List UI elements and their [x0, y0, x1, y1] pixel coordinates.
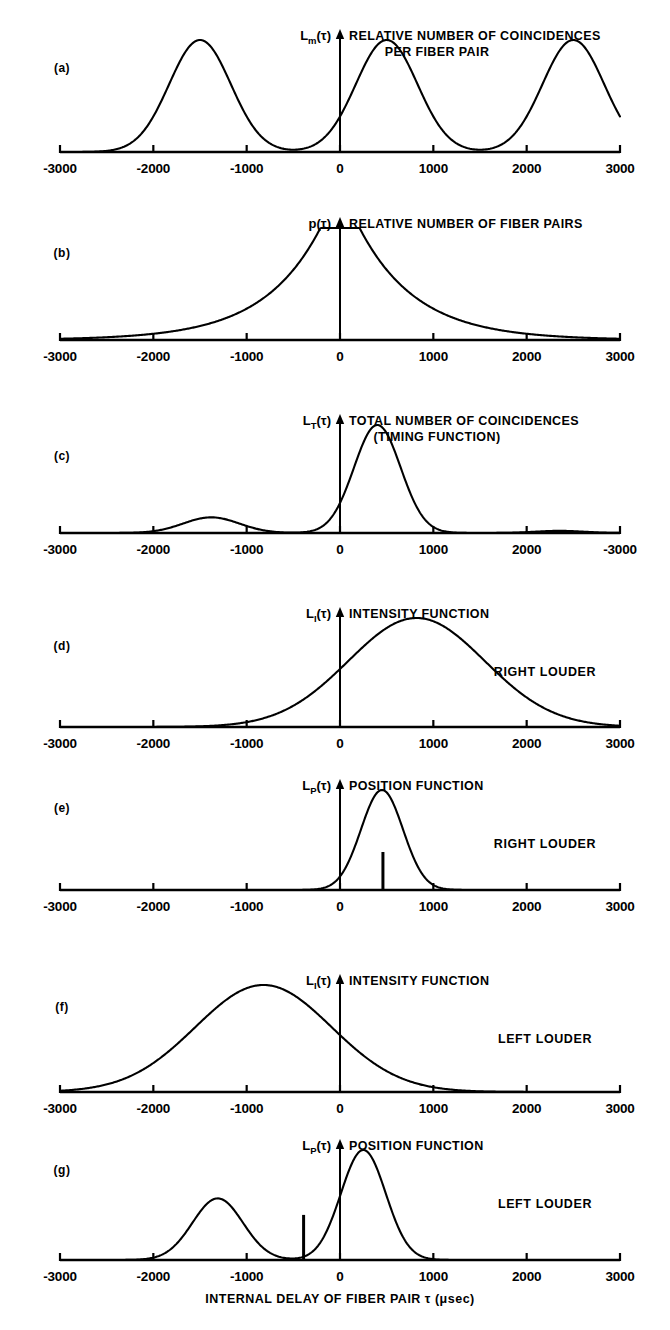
x-tick-label: 2000	[512, 899, 541, 914]
panel-title-line2: PER FIBER PAIR	[385, 45, 490, 59]
x-tick-label: -3000	[43, 161, 77, 176]
x-tick-label: -2000	[137, 1269, 171, 1284]
panel-title: TOTAL NUMBER OF COINCIDENCES	[349, 414, 579, 428]
x-tick-label: 3000	[605, 161, 634, 176]
panel-annotation: LEFT LOUDER	[498, 1032, 592, 1046]
panel-annotation: LEFT LOUDER	[498, 1197, 592, 1211]
x-tick-label: 3000	[605, 1101, 634, 1116]
x-tick-label: 3000	[605, 899, 634, 914]
y-axis-label: LI(τ)	[306, 973, 331, 991]
panel-title: POSITION FUNCTION	[349, 779, 484, 793]
panel-title: INTENSITY FUNCTION	[349, 607, 489, 621]
x-tick-label: -1000	[230, 1101, 264, 1116]
x-tick-label: 3000	[605, 1269, 634, 1284]
x-tick-label: -2000	[137, 349, 171, 364]
y-axis-arrowhead	[336, 974, 344, 984]
x-tick-label: -2000	[137, 1101, 171, 1116]
panel-title: POSITION FUNCTION	[349, 1139, 484, 1153]
x-tick-label: 2000	[512, 1101, 541, 1116]
x-tick-label: -3000	[43, 899, 77, 914]
x-tick-label: 1000	[419, 1101, 448, 1116]
x-tick-label: 1000	[419, 542, 448, 557]
y-axis-label: LP(τ)	[302, 1138, 331, 1156]
x-tick-label: 0	[336, 736, 343, 751]
x-tick-label: -3000	[43, 1269, 77, 1284]
x-tick-label: -3000	[43, 736, 77, 751]
x-tick-label: 3000	[605, 736, 634, 751]
panel-title-line2: (TIMING FUNCTION)	[374, 430, 501, 444]
x-tick-label: -1000	[230, 542, 264, 557]
x-tick-label: -1000	[230, 899, 264, 914]
x-tick-label: -3000	[43, 1101, 77, 1116]
x-tick-label: -1000	[230, 161, 264, 176]
x-tick-label: 0	[336, 899, 343, 914]
x-tick-label: 1000	[419, 349, 448, 364]
y-axis-label: LT(τ)	[303, 413, 331, 431]
x-tick-label: 3000	[605, 349, 634, 364]
panel-letter: (b)	[54, 246, 71, 260]
x-tick-label: -2000	[137, 161, 171, 176]
panel-letter: (e)	[54, 801, 70, 815]
panel-title: RELATIVE NUMBER OF COINCIDENCES	[349, 29, 601, 43]
panel-b: -3000-2000-10000100020003000p(τ)RELATIVE…	[43, 216, 634, 364]
x-tick-label: -2000	[137, 899, 171, 914]
panel-d: -3000-2000-10000100020003000LI(τ)INTENSI…	[43, 606, 634, 751]
x-tick-label: 1000	[419, 899, 448, 914]
panel-e: -3000-2000-10000100020003000LP(τ)POSITIO…	[43, 778, 634, 914]
panel-letter: (f)	[55, 1000, 69, 1014]
panel-title: INTENSITY FUNCTION	[349, 974, 489, 988]
x-tick-label: 2000	[512, 349, 541, 364]
panel-annotation: RIGHT LOUDER	[494, 665, 596, 679]
x-tick-label: 0	[336, 542, 343, 557]
y-axis-label: LP(τ)	[302, 778, 331, 796]
x-tick-label: 1000	[419, 736, 448, 751]
y-axis-label: LI(τ)	[306, 606, 331, 624]
panel-g: -3000-2000-10000100020003000LP(τ)POSITIO…	[43, 1138, 634, 1284]
x-tick-label: -1000	[230, 349, 264, 364]
x-tick-label: 0	[336, 1269, 343, 1284]
panel-letter: (a)	[54, 61, 70, 75]
x-axis-title: INTERNAL DELAY OF FIBER PAIR τ (μsec)	[205, 1292, 475, 1306]
y-axis-arrowhead	[336, 217, 344, 227]
panel-f: -3000-2000-10000100020003000LI(τ)INTENSI…	[43, 973, 634, 1116]
x-tick-label: -2000	[137, 736, 171, 751]
x-tick-label: 1000	[419, 161, 448, 176]
x-tick-label: -1000	[230, 736, 264, 751]
x-tick-label: -2000	[137, 542, 171, 557]
panel-letter: (c)	[54, 449, 70, 463]
x-tick-label: 0	[336, 1101, 343, 1116]
x-tick-label: 1000	[419, 1269, 448, 1284]
x-tick-label: -3000	[43, 542, 77, 557]
x-tick-label: -3000	[43, 349, 77, 364]
binaural-coincidence-figure: -3000-2000-10000100020003000Lm(τ)RELATIV…	[0, 0, 670, 1330]
y-axis-arrowhead	[336, 607, 344, 617]
x-tick-label: 2000	[512, 161, 541, 176]
panel-a: -3000-2000-10000100020003000Lm(τ)RELATIV…	[43, 28, 634, 176]
panel-annotation: RIGHT LOUDER	[494, 837, 596, 851]
panel-letter: (g)	[54, 1163, 71, 1177]
panel-title: RELATIVE NUMBER OF FIBER PAIRS	[349, 217, 583, 231]
y-axis-label: Lm(τ)	[300, 28, 331, 46]
x-tick-label: 2000	[512, 736, 541, 751]
x-tick-label: 2000	[512, 542, 541, 557]
y-axis-label: p(τ)	[309, 216, 331, 231]
y-axis-arrowhead	[336, 29, 344, 39]
x-tick-label: 2000	[512, 1269, 541, 1284]
x-tick-label: -1000	[230, 1269, 264, 1284]
panel-c: -3000-2000-1000010002000-3000LT(τ)TOTAL …	[43, 413, 637, 557]
x-tick-label: 0	[336, 349, 343, 364]
panel-letter: (d)	[54, 639, 71, 653]
x-tick-label: -3000	[603, 542, 637, 557]
y-axis-arrowhead	[336, 1139, 344, 1149]
x-tick-label: 0	[336, 161, 343, 176]
y-axis-arrowhead	[336, 779, 344, 789]
y-axis-arrowhead	[336, 414, 344, 424]
